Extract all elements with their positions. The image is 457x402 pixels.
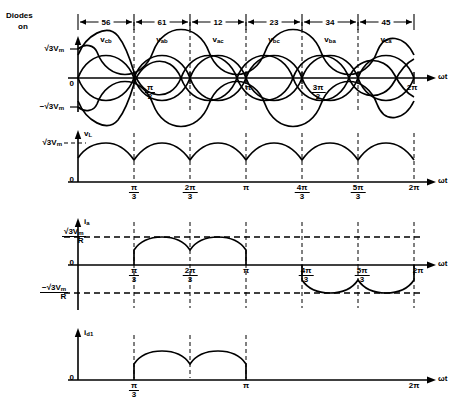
plot2-zero-label: 0 bbox=[70, 176, 74, 184]
plot1-wave-label-bc: vbc bbox=[268, 36, 279, 44]
plot2-tick-1: 2π3 bbox=[183, 184, 198, 202]
diodes-on-label-line2: on bbox=[18, 23, 28, 31]
conduction-interval-1: 61 bbox=[155, 18, 170, 27]
plot1-wave-label-ba: vba bbox=[324, 36, 335, 44]
plot1-wave-label-ac: vac bbox=[212, 36, 223, 44]
conduction-interval-4: 34 bbox=[323, 18, 338, 27]
plot3-y-top-label: √3Vm R bbox=[62, 228, 86, 246]
plot2-y-top-label: √3Vm bbox=[42, 139, 62, 147]
plot1-y-top-label: √3Vm bbox=[44, 45, 64, 53]
plot1-wave-label-cb: vcb bbox=[100, 36, 111, 44]
plot2-axis-label: ωt bbox=[438, 177, 447, 185]
plot1-zero-label: 0 bbox=[70, 80, 74, 88]
plot3-tick-4: 5π3 bbox=[355, 267, 370, 285]
plot4-tick-2: 2π bbox=[409, 382, 420, 390]
plot1-y-bottom-label: −√3Vm bbox=[40, 103, 64, 111]
plot1-tick-1: π bbox=[245, 84, 251, 92]
plot3-axis-label: ωt bbox=[438, 260, 447, 268]
plot1-tick-0: π2 bbox=[145, 84, 155, 102]
plot4-axes bbox=[68, 328, 436, 383]
plot2-tick-0: π3 bbox=[129, 184, 139, 202]
plot4-signal-label: id1 bbox=[84, 329, 93, 337]
plot4-tick-1: π bbox=[243, 382, 249, 390]
conduction-interval-3: 23 bbox=[267, 18, 282, 27]
plot1-tick-3: 2π bbox=[407, 84, 418, 92]
plot2-tick-3: 4π3 bbox=[295, 184, 310, 202]
plot3-tick-3: 4π3 bbox=[299, 267, 314, 285]
conduction-interval-2: 12 bbox=[211, 18, 226, 27]
conduction-interval-5: 45 bbox=[379, 18, 394, 27]
plot3-signal-label: ia bbox=[84, 218, 90, 226]
plot4-tick-0: π3 bbox=[129, 382, 139, 400]
conduction-interval-0: 56 bbox=[99, 18, 114, 27]
plot4-vertical-dashes bbox=[134, 335, 246, 378]
plot2-vertical-dashes bbox=[134, 133, 414, 180]
plot3-y-bottom-label: −√3Vm R bbox=[40, 284, 68, 302]
plot3-tick-1: 2π3 bbox=[183, 267, 198, 285]
plot3-tick-5: 2π bbox=[413, 267, 424, 275]
rectifier-waveform-figure bbox=[0, 0, 457, 402]
plot3-tick-0: π3 bbox=[129, 267, 139, 285]
diodes-on-label-line1: Diodes bbox=[6, 12, 33, 20]
plot1-wave-label-ca: vca bbox=[380, 36, 391, 44]
plot4-zero-label: 0 bbox=[70, 374, 74, 382]
plot3-axes bbox=[68, 218, 436, 310]
plot2-signal-label: vL bbox=[84, 130, 92, 138]
plot2-axes bbox=[68, 130, 436, 185]
plot2-tick-4: 5π3 bbox=[351, 184, 366, 202]
plot3-tick-2: π bbox=[243, 267, 249, 275]
plot1-axis-label: ωt bbox=[438, 73, 447, 81]
plot2-tick-2: π bbox=[243, 184, 249, 192]
plot3-zero-label: 0 bbox=[70, 259, 74, 267]
plot1-wave-label-ab: vab bbox=[156, 36, 167, 44]
plot1-tick-2: 3π2 bbox=[311, 84, 326, 102]
plot2-tick-5: 2π bbox=[409, 184, 420, 192]
plot4-axis-label: ωt bbox=[438, 375, 447, 383]
